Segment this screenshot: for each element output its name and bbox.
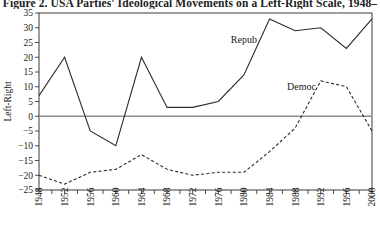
y-axis-tick-label: 35 <box>24 8 34 18</box>
x-axis-tick-label: 1960 <box>111 187 121 206</box>
y-axis-tick-label: 25 <box>24 38 34 48</box>
x-axis-tick-label: 1956 <box>86 187 96 206</box>
x-axis-tick-label: 1996 <box>342 187 352 206</box>
x-axis-tick-label: 1952 <box>60 187 70 206</box>
series-label-repub: Repub <box>231 34 257 45</box>
y-axis-tick-label: 30 <box>24 23 34 33</box>
x-axis-tick-label: 1980 <box>239 187 249 206</box>
y-axis-tick-label: 10 <box>24 82 34 92</box>
y-axis-tick-label: −25 <box>18 185 33 195</box>
plot-frame <box>39 13 372 190</box>
x-axis-tick-label: 1972 <box>188 187 198 206</box>
x-axis-tick-label: 1976 <box>214 187 224 206</box>
x-axis-tick-label: 1964 <box>137 187 147 206</box>
chart-svg: −25−20−15−10−505101520253035Left-Right19… <box>0 0 380 232</box>
y-axis-title: Left-Right <box>3 81 13 121</box>
y-axis-tick-label: 15 <box>24 67 34 77</box>
x-axis-tick-label: 1988 <box>291 187 301 206</box>
x-axis-tick-label: 1968 <box>162 187 172 206</box>
y-axis-tick-label: 20 <box>24 53 34 63</box>
y-axis-tick-label: −10 <box>18 141 33 151</box>
y-axis-tick-label: −20 <box>18 171 33 181</box>
series-line-repub <box>39 19 372 146</box>
x-axis-tick-label: 2000 <box>367 187 377 206</box>
y-axis-tick-label: −15 <box>18 156 33 166</box>
y-axis-tick-label: −5 <box>23 126 33 136</box>
series-line-democ <box>39 81 372 184</box>
x-axis-tick-label: 1992 <box>316 187 326 206</box>
series-label-democ: Democ <box>287 81 316 92</box>
figure-panel: Figure 2. USA Parties' Ideological Movem… <box>0 0 380 232</box>
x-axis-tick-label: 1984 <box>265 187 275 206</box>
y-axis-tick-label: 5 <box>28 97 33 107</box>
y-axis-tick-label: 0 <box>28 112 33 122</box>
x-axis-tick-label: 1948 <box>34 187 44 206</box>
